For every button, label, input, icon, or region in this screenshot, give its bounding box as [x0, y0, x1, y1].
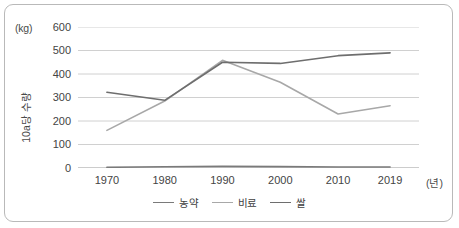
plot-area	[78, 27, 419, 168]
chart-legend: 농약비료쌀	[5, 195, 454, 210]
y-axis-title: 10a당 수량	[18, 78, 33, 158]
y-tick-label: 500	[41, 45, 71, 56]
legend-item-label: 비료	[238, 195, 258, 210]
legend-item-label: 농약	[179, 195, 199, 210]
legend-item[interactable]: 비료	[212, 195, 258, 210]
y-tick-label: 600	[41, 22, 71, 33]
legend-item[interactable]: 농약	[153, 195, 199, 210]
x-tick-label: 2010	[316, 175, 360, 186]
x-tick-label: 2000	[258, 175, 302, 186]
gridlines	[78, 27, 419, 168]
legend-line-swatch	[270, 202, 291, 203]
chart-figure-frame: (kg) (년) 10a당 수량 0100200300400500600 197…	[4, 4, 453, 222]
y-tick-label: 100	[41, 139, 71, 150]
series-line-비료	[107, 60, 390, 130]
x-tick-label: 1990	[200, 175, 244, 186]
x-tick-label: 1970	[85, 175, 129, 186]
series-line-쌀	[107, 53, 390, 100]
legend-item-label: 쌀	[296, 195, 306, 210]
legend-line-swatch	[212, 202, 233, 203]
y-tick-label: 200	[41, 116, 71, 127]
y-tick-label: 300	[41, 92, 71, 103]
series-line-농약	[107, 166, 390, 167]
line-chart-svg	[78, 27, 419, 168]
y-tick-label: 0	[41, 163, 71, 174]
y-axis-unit-label: (kg)	[15, 22, 32, 34]
y-tick-label: 400	[41, 69, 71, 80]
x-tick-label: 2019	[368, 175, 412, 186]
x-axis-unit-label: (년)	[426, 175, 443, 190]
legend-line-swatch	[153, 202, 174, 203]
x-tick-label: 1980	[143, 175, 187, 186]
series-lines	[107, 53, 390, 167]
legend-item[interactable]: 쌀	[270, 195, 306, 210]
